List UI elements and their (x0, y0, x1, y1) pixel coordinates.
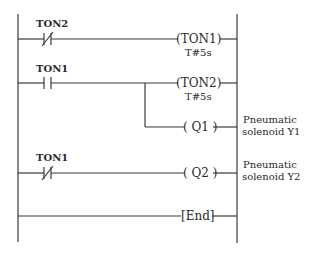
coil-ton2: (TON2) (176, 76, 221, 90)
end-instruction: [End] (181, 209, 215, 223)
contact-label: TON1 (36, 152, 68, 163)
timer-preset: T#5s (185, 47, 212, 58)
note-y1-line1: Pneumatic (243, 114, 297, 125)
note-y2-line2: solenoid Y2 (242, 171, 300, 182)
rung-3: TON1 ( Q2 ) Pneumatic solenoid Y2 (18, 152, 300, 182)
coil-ton1: (TON1) (176, 32, 221, 46)
rung-1: TON2 (TON1) T#5s (18, 18, 237, 58)
rung-end: [End] (18, 209, 237, 223)
no-contact-icon (44, 77, 51, 89)
rung-2: TON1 (TON2) T#5s ( Q1 ) Pneumatic soleno… (18, 63, 300, 137)
contact-label: TON1 (36, 63, 68, 74)
contact-label: TON2 (36, 18, 68, 29)
note-y1-line2: solenoid Y1 (242, 126, 300, 137)
ladder-diagram: TON2 (TON1) T#5s TON1 (TON2) T#5s ( Q1 )… (0, 0, 311, 256)
note-y2-line1: Pneumatic (243, 159, 297, 170)
timer-preset: T#5s (185, 91, 212, 102)
coil-q1: ( Q1 ) (183, 120, 217, 134)
coil-q2: ( Q2 ) (183, 166, 217, 180)
